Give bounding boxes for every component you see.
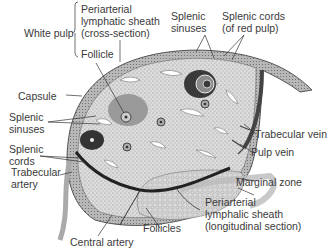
label-pals-longitudinal: Periarterial lymphalic sheath (longitudi… <box>205 196 301 232</box>
follicle-left <box>80 130 104 150</box>
label-follicles: Follicles <box>143 222 181 234</box>
label-pulp-vein: Pulp vein <box>251 146 294 158</box>
label-pals-cross-section: Periarterial lymphatic sheath (cross-sec… <box>81 3 160 39</box>
label-trabecular-vein: Trabecular vein <box>255 128 327 140</box>
follicle-large <box>184 70 216 98</box>
follicle-pals <box>108 94 148 126</box>
label-capsule: Capsule <box>18 90 57 102</box>
label-splenic-cords-left: Splenic cords <box>9 143 43 167</box>
label-splenic-sinuses-left: Splenic sinuses <box>9 111 45 135</box>
label-marginal-zone: Marginal zone <box>236 176 302 188</box>
label-white-pulp: White pulp <box>24 27 74 39</box>
label-splenic-cords-top: Splenic cords (of red pulp) <box>222 10 285 34</box>
label-splenic-sinuses-top: Splenic sinuses <box>171 10 207 34</box>
label-follicle: Follicle <box>81 48 114 60</box>
label-trabecular-artery: Trabecular artery <box>11 166 61 190</box>
label-central-artery: Central artery <box>70 236 134 248</box>
